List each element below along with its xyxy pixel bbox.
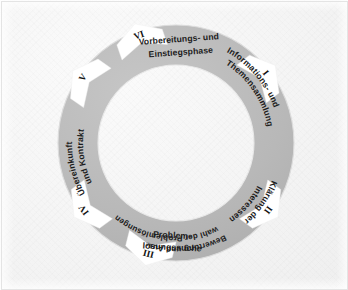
process-wheel: I II III IV V VI Vorbereitu [0, 0, 348, 290]
diagram-canvas: I II III IV V VI Vorbereitu [0, 0, 348, 290]
